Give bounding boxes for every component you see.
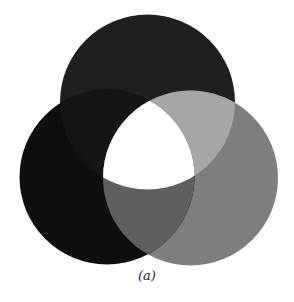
three-circle-venn-diagram xyxy=(0,0,294,302)
figure-caption: (a) xyxy=(0,268,294,283)
venn-diagram-figure: (a) xyxy=(0,0,294,302)
